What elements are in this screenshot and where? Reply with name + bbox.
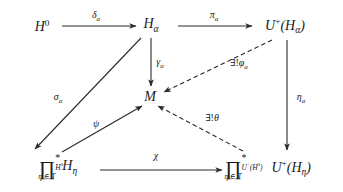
edge-label-theta: ∃!θ: [205, 113, 219, 123]
arrow-phi: [164, 40, 272, 92]
node-restricted-product-left: ∏*H0η ∈ T Hη: [39, 158, 77, 178]
edge-label-eta: ηα: [297, 92, 306, 105]
node-M: M: [144, 90, 156, 104]
edge-label-gamma: γα: [156, 57, 164, 70]
commutative-diagram: M (dashed) --> M (dashed) --> H0 Hα U+(H…: [0, 0, 343, 192]
restricted-product-left-symbol: ∏*H0η ∈ T: [39, 158, 55, 178]
node-restricted-product-right: ∏*U+(H0)η ∈ TU+(Hη): [225, 158, 311, 178]
edge-label-chi: χ: [154, 151, 158, 161]
edge-label-psi: ψ: [93, 119, 99, 129]
arrow-sigma: [35, 38, 141, 149]
node-H-alpha: Hα: [143, 17, 158, 34]
node-H0-label: H0: [35, 19, 50, 34]
edge-label-sigma: σα: [54, 92, 63, 105]
restricted-product-right-symbol: ∏*U+(H0)η ∈ T: [225, 158, 241, 178]
edge-label-pi: πα: [210, 10, 219, 23]
arrow-psi: [62, 106, 142, 152]
edge-label-delta: δα: [92, 10, 100, 23]
node-M-label: M: [144, 89, 156, 104]
restricted-product-right-body: U+(Hη): [271, 159, 311, 178]
node-H-alpha-label: Hα: [143, 16, 158, 31]
edge-label-phi: ∃!φα: [230, 58, 248, 71]
arrow-theta: [158, 106, 243, 151]
node-H0: H0: [35, 18, 50, 34]
node-U-plus-H-alpha-label: U+(Hα): [265, 17, 305, 32]
node-U-plus-H-alpha: U+(Hα): [265, 17, 305, 36]
